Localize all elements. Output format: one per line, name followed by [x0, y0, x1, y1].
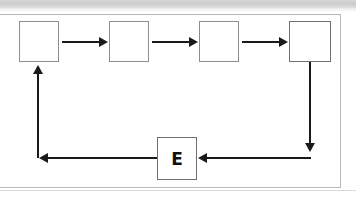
node-box-e[interactable]: E — [157, 137, 197, 180]
arrow-1-to-2-head — [99, 37, 108, 47]
arrow-e-to-left-rail-head — [39, 153, 48, 163]
arrow-4-down-head — [305, 143, 315, 152]
node-box-4-label — [290, 22, 330, 61]
arrow-rail-to-e-shaft — [206, 157, 311, 159]
node-box-1-label — [20, 22, 58, 61]
node-box-e-label: E — [158, 138, 196, 179]
arrow-4-down-shaft — [309, 62, 311, 145]
arrow-3-to-4-shaft — [242, 41, 280, 43]
scan-top-band — [0, 0, 356, 9]
arrow-rail-to-e-head — [198, 153, 207, 163]
arrow-e-to-left-rail-shaft — [47, 157, 157, 159]
arrow-up-to-1-shaft — [37, 73, 39, 158]
node-box-4[interactable] — [289, 21, 331, 62]
node-box-1[interactable] — [19, 21, 59, 62]
node-box-2-label — [110, 22, 148, 61]
figure-canvas: E — [0, 0, 356, 199]
figure-bottom-rule — [0, 190, 356, 191]
arrow-2-to-3-head — [189, 37, 198, 47]
node-box-3[interactable] — [199, 21, 239, 62]
arrow-up-to-1-head — [33, 65, 43, 74]
node-box-2[interactable] — [109, 21, 149, 62]
arrow-1-to-2-shaft — [62, 41, 100, 43]
scan-top-band-shadow — [0, 9, 356, 11]
arrow-3-to-4-head — [279, 37, 288, 47]
arrow-2-to-3-shaft — [152, 41, 190, 43]
node-box-3-label — [200, 22, 238, 61]
